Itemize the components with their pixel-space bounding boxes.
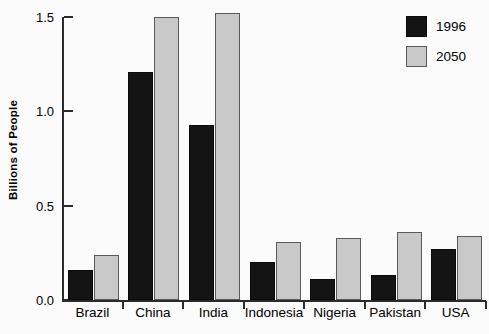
bar-usa-1996 <box>431 249 456 300</box>
bar-india-2050 <box>215 13 240 300</box>
bar-chart-figure: Billions of People 0.00.51.01.5 BrazilCh… <box>0 0 489 334</box>
bar-china-2050 <box>154 17 179 300</box>
black-square-swatch <box>406 16 427 37</box>
x-axis-label-usa: USA <box>442 305 470 320</box>
x-axis-label-nigeria: Nigeria <box>313 305 356 320</box>
bar-pakistan-1996 <box>371 275 396 300</box>
bar-indonesia-2050 <box>276 242 301 300</box>
chart-legend: 19962050 <box>406 14 488 74</box>
bar-nigeria-1996 <box>310 279 335 300</box>
legend-label: 1996 <box>436 19 466 34</box>
x-axis-tick-labels: BrazilChinaIndiaIndonesiaNigeriaPakistan… <box>62 305 486 329</box>
bar-nigeria-2050 <box>336 238 361 300</box>
legend-item-1996: 1996 <box>406 14 488 38</box>
bar-brazil-2050 <box>94 255 119 300</box>
bar-indonesia-1996 <box>250 262 275 300</box>
bar-pakistan-2050 <box>397 232 422 300</box>
x-axis-label-pakistan: Pakistan <box>369 305 421 320</box>
legend-item-2050: 2050 <box>406 44 488 68</box>
y-axis-tick-label: 1.5 <box>20 10 54 25</box>
x-axis-label-china: China <box>135 305 170 320</box>
legend-label: 2050 <box>436 49 466 64</box>
y-axis-tick-mark <box>64 16 73 18</box>
bar-usa-2050 <box>457 236 482 300</box>
y-axis-tick-mark <box>64 205 73 207</box>
x-axis-label-india: India <box>199 305 228 320</box>
x-axis-line <box>62 300 486 302</box>
x-axis-label-indonesia: Indonesia <box>245 305 304 320</box>
y-axis-line <box>62 17 64 300</box>
gray-square-swatch <box>406 46 427 67</box>
y-axis-tick-label: 0.0 <box>20 293 54 308</box>
y-axis-tick-mark <box>64 110 73 112</box>
bar-india-1996 <box>189 125 214 300</box>
y-axis-tick-label: 1.0 <box>20 104 54 119</box>
y-axis-tick-label: 0.5 <box>20 198 54 213</box>
x-axis-label-brazil: Brazil <box>75 305 109 320</box>
bar-china-1996 <box>128 72 153 300</box>
bar-brazil-1996 <box>68 270 93 300</box>
y-axis-tick-labels: 0.00.51.01.5 <box>18 0 54 334</box>
